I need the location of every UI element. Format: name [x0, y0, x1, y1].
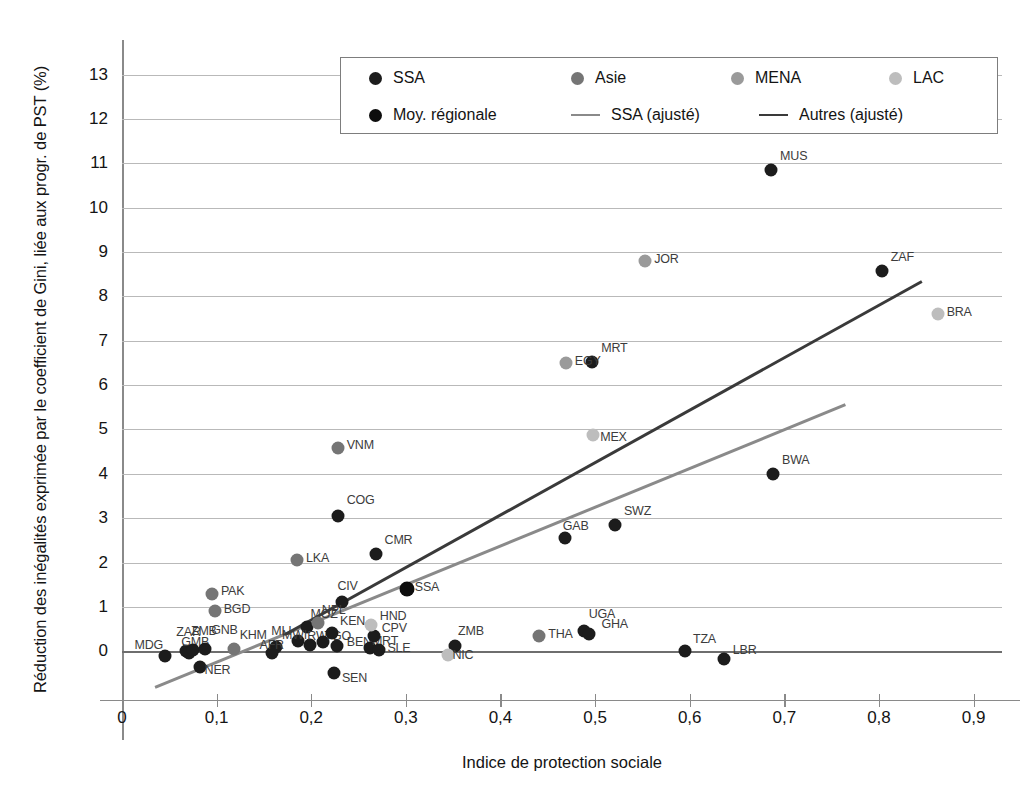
y-tick-label: 6: [48, 375, 108, 395]
data-point: [765, 164, 778, 177]
legend-dot-icon: [571, 72, 584, 85]
data-point-label: SWZ: [624, 504, 651, 518]
data-point: [399, 582, 414, 597]
legend-label: SSA: [393, 69, 425, 87]
data-point: [331, 442, 344, 455]
legend-row-categories: SSAAsieMENALAC: [341, 59, 997, 97]
data-point-label: MRT: [601, 341, 627, 355]
y-axis-title: Réduction des inégalités exprimée par le…: [31, 30, 50, 730]
legend-label: Moy. régionale: [393, 106, 497, 124]
y-tick-label: 1: [48, 597, 108, 617]
data-point: [559, 356, 572, 369]
data-point: [717, 653, 730, 666]
legend-row-series: Moy. régionaleSSA (ajusté)Autres (ajusté…: [341, 96, 997, 134]
x-tick-label: 0: [92, 708, 152, 728]
legend-item[interactable]: Asie: [571, 69, 626, 87]
legend-item[interactable]: Moy. régionale: [369, 106, 497, 124]
legend-item[interactable]: SSA: [369, 69, 425, 87]
y-tick-label: 10: [48, 198, 108, 218]
data-point: [767, 467, 780, 480]
x-tick-label: 0,2: [281, 708, 341, 728]
data-point-label: SSA: [415, 580, 439, 594]
x-tick-label: 0,4: [470, 708, 530, 728]
data-point: [331, 509, 344, 522]
data-point-label: PAK: [221, 584, 245, 598]
data-point: [608, 518, 621, 531]
y-tick-label: 5: [48, 419, 108, 439]
x-tick-label: 0,7: [754, 708, 814, 728]
data-point-label: ZAF: [891, 250, 914, 264]
data-point-label: MWI: [282, 628, 307, 642]
data-point: [327, 667, 340, 680]
x-tick-label: 0,5: [565, 708, 625, 728]
data-point-label: MDG: [135, 638, 164, 652]
data-point-label: SEN: [342, 671, 367, 685]
data-point: [205, 587, 218, 600]
data-point: [369, 547, 382, 560]
legend-item[interactable]: MENA: [731, 69, 801, 87]
data-point-label: CMR: [385, 533, 413, 547]
data-point-label: NPL: [322, 603, 346, 617]
data-point: [533, 629, 546, 642]
legend-label: Asie: [595, 69, 626, 87]
trend-line: [284, 280, 922, 635]
y-tick-label: 12: [48, 109, 108, 129]
x-axis-title: Indice de protection sociale: [122, 753, 1002, 772]
data-point: [373, 644, 386, 657]
data-point-label: CPV: [382, 621, 407, 635]
legend-line-icon: [759, 114, 788, 117]
legend-label: SSA (ajusté): [611, 106, 700, 124]
legend-dot-icon: [889, 72, 902, 85]
legend-dot-icon: [369, 109, 382, 122]
y-tick-label: 11: [48, 153, 108, 173]
data-point: [311, 617, 324, 630]
legend-dot-icon: [731, 72, 744, 85]
data-point-label: BWA: [782, 453, 809, 467]
y-tick-label: 8: [48, 286, 108, 306]
data-point-label: GNB: [211, 623, 238, 637]
y-tick-label: 7: [48, 331, 108, 351]
data-point: [186, 644, 199, 657]
chart-figure: Réduction des inégalités exprimée par le…: [0, 0, 1030, 796]
data-point-label: GHA: [601, 617, 628, 631]
data-point-label: CIV: [337, 579, 357, 593]
data-point: [227, 643, 240, 656]
legend-dot-icon: [369, 72, 382, 85]
y-tick-label: 0: [48, 641, 108, 661]
data-point-label: GAB: [563, 519, 589, 533]
legend-item[interactable]: Autres (ajusté): [759, 106, 903, 124]
data-point-label: COG: [347, 493, 375, 507]
legend-item[interactable]: SSA (ajusté): [571, 106, 700, 124]
data-point-label: THA: [548, 627, 572, 641]
legend-item[interactable]: LAC: [889, 69, 944, 87]
data-point: [367, 629, 380, 642]
data-point: [199, 643, 212, 656]
data-point: [364, 618, 377, 631]
y-tick-label: 9: [48, 242, 108, 262]
x-tick-label: 0,3: [376, 708, 436, 728]
data-point: [330, 639, 343, 652]
data-point-label: ZMB: [458, 624, 484, 638]
data-point-label: MUS: [780, 149, 807, 163]
chart-legend: SSAAsieMENALAC Moy. régionaleSSA (ajusté…: [340, 57, 998, 134]
x-tick-label: 0,9: [944, 708, 1004, 728]
legend-label: MENA: [755, 69, 801, 87]
legend-label: LAC: [913, 69, 944, 87]
y-tick-label: 2: [48, 553, 108, 573]
data-point-label: LKA: [306, 551, 329, 565]
data-point: [679, 645, 692, 658]
data-point-label: HND: [380, 609, 406, 623]
y-tick-label: 3: [48, 508, 108, 528]
x-tick-label: 0,8: [849, 708, 909, 728]
data-point-label: KHM: [240, 628, 267, 642]
data-point: [558, 532, 571, 545]
x-axis-line: [100, 700, 1020, 701]
data-point: [587, 428, 600, 441]
legend-line-icon: [571, 114, 600, 117]
data-point: [291, 554, 304, 567]
data-point-label: EGY: [575, 354, 601, 368]
data-point-label: MEX: [600, 430, 627, 444]
data-point: [639, 254, 652, 267]
data-point-label: NIC: [453, 648, 474, 662]
x-tick-label: 0,1: [187, 708, 247, 728]
